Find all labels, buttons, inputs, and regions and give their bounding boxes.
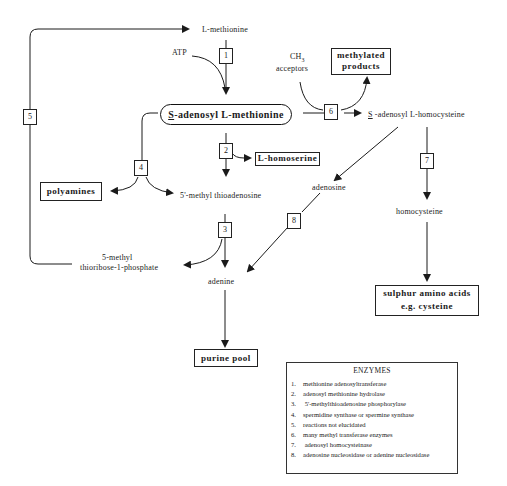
legend-item: 5.reactions not elucidated	[291, 420, 457, 430]
s-adenosyl-methionine-node: S-adenosyl L-methionine	[160, 104, 292, 125]
legend-item: 8.adenosine nucleosidase or adenine nucl…	[291, 450, 457, 460]
homocysteine-label: homocysteine	[396, 207, 443, 216]
l-homoserine-box: L-homoserine	[255, 152, 320, 166]
sulphur-amino-acids-box: sulphur amino acids e.g. cysteine	[375, 285, 479, 316]
enzyme-step-1: 1	[219, 48, 233, 64]
methylthioribose-label-2: thioribose-1-phosphate	[80, 263, 158, 272]
purine-pool-box: purine pool	[194, 349, 258, 367]
legend-item: 6.many methyl transferase enzymes	[291, 430, 457, 440]
legend-item: 4.spermidine synthase or spermine syntha…	[291, 410, 457, 420]
legend-item: 1.methionine adenosyltransferase	[291, 379, 457, 389]
l-methionine-label: L-methionine	[202, 25, 248, 34]
acceptors-label: acceptors	[276, 64, 308, 73]
atp-label: ATP	[172, 48, 187, 57]
enzyme-step-3: 3	[218, 222, 232, 238]
methylthioadenosine-label: 5'-methyl thioadenosine	[180, 191, 261, 200]
legend-item: 7. adenosyl homocysteinase	[291, 440, 457, 450]
adenosine-label: adenosine	[312, 183, 346, 192]
enzyme-step-2: 2	[219, 143, 233, 159]
legend-title: ENZYMES	[287, 366, 457, 375]
enzyme-step-5: 5	[23, 109, 37, 125]
ch3-label: CH3	[290, 52, 305, 63]
methylthioribose-label-1: 5-methyl	[102, 253, 132, 262]
polyamines-box: polyamines	[40, 182, 102, 201]
legend-item: 2.adenosyl methionine hydrolase	[291, 389, 457, 399]
adenine-label: adenine	[208, 277, 234, 286]
enzyme-step-8: 8	[287, 213, 301, 229]
enzymes-legend: ENZYMES 1.methionine adenosyltransferase…	[286, 362, 458, 474]
enzyme-step-7: 7	[420, 153, 434, 169]
enzyme-step-6: 6	[324, 104, 338, 120]
methylated-products-box: methylated products	[331, 48, 391, 75]
enzyme-step-4: 4	[134, 160, 148, 176]
s-adenosyl-homocysteine-label: S -adenosyl L-homocysteine	[368, 110, 465, 119]
legend-item: 3. 5'-methylthioadenosine phosphorylase	[291, 399, 457, 409]
